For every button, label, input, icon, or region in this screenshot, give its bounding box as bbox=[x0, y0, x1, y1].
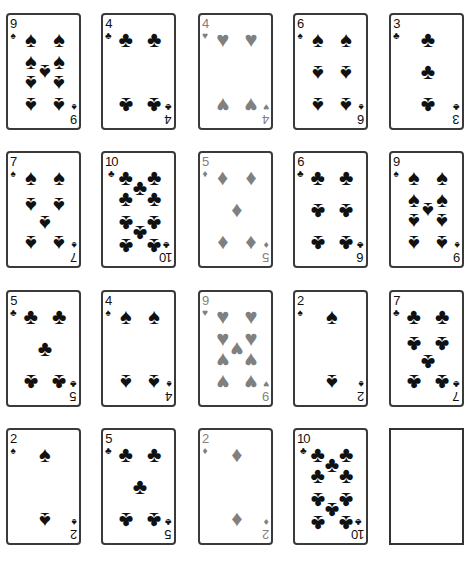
spades-icon: ♠ bbox=[312, 29, 324, 51]
card-index-bottom-right: 6♠ bbox=[358, 102, 364, 126]
spades-icon: ♠ bbox=[53, 232, 65, 254]
card-9-of-hearts[interactable]: 9♥9♥♥♥♥♥♥♥♥♥♥ bbox=[198, 290, 273, 407]
card-7-of-spades[interactable]: 7♠7♠♠♠♠♠♠♠♠ bbox=[6, 151, 81, 268]
card-index-bottom-right: 2♠ bbox=[71, 517, 77, 541]
card-rank: 7 bbox=[10, 155, 16, 168]
clubs-icon: ♣ bbox=[311, 232, 325, 254]
clubs-icon: ♣ bbox=[393, 308, 400, 318]
card-5-of-clubs[interactable]: 5♣5♣♣♣♣♣♣ bbox=[101, 428, 176, 545]
hearts-icon: ♥ bbox=[245, 94, 258, 116]
card-9-of-spades[interactable]: 9♠9♠♠♠♠♠♠♠♠♠♠ bbox=[389, 151, 464, 268]
hearts-icon: ♥ bbox=[230, 338, 243, 360]
spades-icon: ♠ bbox=[326, 371, 338, 393]
clubs-icon: ♣ bbox=[119, 509, 133, 531]
card-9-of-spades[interactable]: 9♠9♠♠♠♠♠♠♠♠♠♠ bbox=[6, 13, 81, 130]
card-4-of-hearts[interactable]: 4♥4♥♥♥♥♥ bbox=[198, 13, 273, 130]
clubs-icon: ♣ bbox=[38, 338, 52, 360]
card-rank: 6 bbox=[358, 251, 364, 264]
spades-icon: ♠ bbox=[340, 62, 352, 84]
spades-icon: ♠ bbox=[358, 379, 363, 389]
clubs-icon: ♣ bbox=[52, 371, 66, 393]
card-7-of-clubs[interactable]: 7♣7♣♣♣♣♣♣♣♣ bbox=[389, 290, 464, 407]
spades-icon: ♠ bbox=[25, 167, 37, 189]
spades-icon: ♠ bbox=[312, 62, 324, 84]
card-5-of-diamonds[interactable]: 5♦5♦♦♦♦♦♦ bbox=[198, 151, 273, 268]
spades-icon: ♠ bbox=[71, 102, 76, 112]
spades-icon: ♠ bbox=[393, 169, 398, 179]
card-index-bottom-right: 7♣ bbox=[453, 379, 460, 403]
card-index-top-left: 10♣ bbox=[105, 155, 117, 179]
card-rank: 5 bbox=[263, 251, 269, 264]
card-6-of-spades[interactable]: 6♠6♠♠♠♠♠♠♠ bbox=[293, 13, 368, 130]
clubs-icon: ♣ bbox=[147, 29, 161, 51]
card-3-of-clubs[interactable]: 3♣3♣♣♣♣ bbox=[389, 13, 464, 130]
clubs-icon: ♣ bbox=[311, 489, 325, 511]
spades-icon: ♠ bbox=[25, 94, 37, 116]
clubs-icon: ♣ bbox=[119, 235, 133, 257]
card-4-of-spades[interactable]: 4♠4♠♠♠♠♠ bbox=[101, 290, 176, 407]
card-index-bottom-right: 4♥ bbox=[263, 102, 269, 126]
card-5-of-clubs[interactable]: 5♣5♣♣♣♣♣♣ bbox=[6, 290, 81, 407]
card-2-of-spades[interactable]: 2♠2♠♠♠ bbox=[6, 428, 81, 545]
card-index-top-left: 9♠ bbox=[393, 155, 399, 179]
card-2-of-spades[interactable]: 2♠2♠♠♠ bbox=[293, 290, 368, 407]
clubs-icon: ♣ bbox=[311, 200, 325, 222]
card-index-bottom-right: 9♥ bbox=[263, 379, 269, 403]
card-index-bottom-right: 5♣ bbox=[70, 379, 77, 403]
card-rank: 2 bbox=[263, 528, 269, 541]
hearts-icon: ♥ bbox=[263, 102, 269, 112]
clubs-icon: ♣ bbox=[325, 454, 339, 476]
card-rank: 2 bbox=[10, 432, 16, 445]
clubs-icon: ♣ bbox=[339, 489, 353, 511]
card-6-of-clubs[interactable]: 6♣6♣♣♣♣♣♣♣ bbox=[293, 151, 368, 268]
card-index-bottom-right: 9♠ bbox=[454, 240, 460, 264]
card-10-of-clubs[interactable]: 10♣10♣♣♣♣♣♣♣♣♣♣♣ bbox=[293, 428, 368, 545]
clubs-icon: ♣ bbox=[325, 499, 339, 521]
hearts-icon: ♥ bbox=[245, 349, 258, 371]
hearts-icon: ♥ bbox=[245, 306, 258, 328]
spades-icon: ♠ bbox=[25, 194, 37, 216]
clubs-icon: ♣ bbox=[119, 29, 133, 51]
card-rank: 10 bbox=[352, 528, 364, 541]
card-4-of-clubs[interactable]: 4♣4♣♣♣♣♣ bbox=[101, 13, 176, 130]
diamonds-icon: ♦ bbox=[231, 444, 242, 466]
clubs-icon: ♣ bbox=[108, 169, 115, 179]
clubs-icon: ♣ bbox=[147, 509, 161, 531]
spades-icon: ♠ bbox=[10, 31, 15, 41]
card-index-bottom-right: 3♣ bbox=[453, 102, 460, 126]
card-rank: 4 bbox=[166, 113, 172, 126]
clubs-icon: ♣ bbox=[421, 94, 435, 116]
card-rank: 6 bbox=[358, 113, 364, 126]
empty-card-slot[interactable] bbox=[389, 428, 464, 545]
card-index-top-left: 7♣ bbox=[393, 294, 400, 318]
card-rank: 5 bbox=[10, 294, 16, 307]
card-rank: 5 bbox=[202, 155, 208, 168]
hearts-icon: ♥ bbox=[202, 31, 208, 41]
card-index-bottom-right: 5♣ bbox=[165, 517, 172, 541]
card-index-top-left: 5♣ bbox=[10, 294, 17, 318]
clubs-icon: ♣ bbox=[133, 476, 147, 498]
card-10-of-clubs[interactable]: 10♣10♣♣♣♣♣♣♣♣♣♣♣ bbox=[101, 151, 176, 268]
card-index-bottom-right: 5♦ bbox=[263, 240, 269, 264]
spades-icon: ♠ bbox=[25, 232, 37, 254]
card-2-of-diamonds[interactable]: 2♦2♦♦♦ bbox=[198, 428, 273, 545]
clubs-icon: ♣ bbox=[147, 235, 161, 257]
diamonds-icon: ♦ bbox=[203, 446, 208, 456]
clubs-icon: ♣ bbox=[70, 379, 77, 389]
spades-icon: ♠ bbox=[326, 306, 338, 328]
spades-icon: ♠ bbox=[454, 240, 459, 250]
spades-icon: ♠ bbox=[25, 72, 37, 94]
clubs-icon: ♣ bbox=[300, 446, 307, 456]
card-index-top-left: 7♠ bbox=[10, 155, 16, 179]
clubs-icon: ♣ bbox=[147, 444, 161, 466]
clubs-icon: ♣ bbox=[10, 308, 17, 318]
card-index-bottom-right: 2♦ bbox=[263, 517, 269, 541]
hearts-icon: ♥ bbox=[245, 29, 258, 51]
diamonds-icon: ♦ bbox=[245, 167, 256, 189]
clubs-icon: ♣ bbox=[147, 188, 161, 210]
clubs-icon: ♣ bbox=[105, 446, 112, 456]
diamonds-icon: ♦ bbox=[263, 240, 268, 250]
card-rank: 3 bbox=[393, 17, 399, 30]
card-index-bottom-right: 4♣ bbox=[165, 102, 172, 126]
hearts-icon: ♥ bbox=[216, 306, 229, 328]
